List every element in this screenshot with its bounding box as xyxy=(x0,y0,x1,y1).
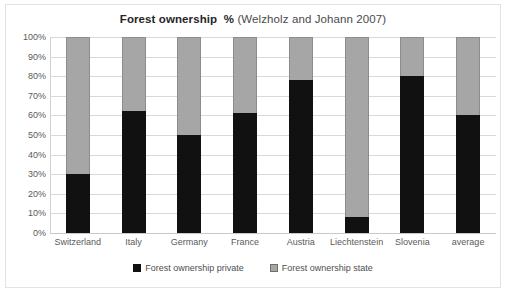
bar-segment-state[interactable] xyxy=(400,37,424,76)
bar-slot xyxy=(162,37,218,233)
stacked-bar[interactable] xyxy=(66,37,90,233)
y-axis-tick-label: 0% xyxy=(6,228,46,238)
x-axis-tick-label: France xyxy=(217,237,273,247)
stacked-bar[interactable] xyxy=(289,37,313,233)
bar-slot xyxy=(273,37,329,233)
bar-segment-private[interactable] xyxy=(177,135,201,233)
y-axis-tick-label: 80% xyxy=(6,71,46,81)
bar-segment-state[interactable] xyxy=(66,37,90,174)
gray-square-icon xyxy=(270,264,278,272)
legend-item[interactable]: Forest ownership state xyxy=(270,263,373,273)
bar-segment-private[interactable] xyxy=(66,174,90,233)
black-square-icon xyxy=(133,264,141,272)
bar-slot xyxy=(329,37,385,233)
bar-slot xyxy=(106,37,162,233)
bar-segment-state[interactable] xyxy=(456,37,480,115)
legend-item-label: Forest ownership state xyxy=(282,263,373,273)
legend-item[interactable]: Forest ownership private xyxy=(133,263,244,273)
y-axis-tick-label: 90% xyxy=(6,52,46,62)
bar-segment-private[interactable] xyxy=(400,76,424,233)
legend-item-label: Forest ownership private xyxy=(145,263,244,273)
bar-slot xyxy=(385,37,441,233)
bar-segment-state[interactable] xyxy=(122,37,146,111)
bar-segment-private[interactable] xyxy=(122,111,146,233)
chart-title: Forest ownership % (Welzholz and Johann … xyxy=(6,13,500,25)
chart-container: Forest ownership % (Welzholz and Johann … xyxy=(5,4,501,288)
y-axis-tick-label: 100% xyxy=(6,32,46,42)
bar-series-group xyxy=(50,37,496,233)
chart-title-main: Forest ownership % xyxy=(120,13,234,25)
y-axis-tick-label: 70% xyxy=(6,91,46,101)
y-axis-tick-label: 30% xyxy=(6,169,46,179)
y-axis-tick-label: 20% xyxy=(6,189,46,199)
x-axis-tick-label: Austria xyxy=(273,237,329,247)
y-axis-tick-label: 40% xyxy=(6,150,46,160)
bar-segment-private[interactable] xyxy=(345,217,369,233)
x-axis-tick-label: Switzerland xyxy=(50,237,106,247)
y-axis-tick-label: 10% xyxy=(6,208,46,218)
bar-segment-state[interactable] xyxy=(233,37,257,113)
bar-segment-state[interactable] xyxy=(177,37,201,135)
bar-segment-state[interactable] xyxy=(345,37,369,217)
bar-slot xyxy=(440,37,496,233)
bar-slot xyxy=(50,37,106,233)
bar-segment-state[interactable] xyxy=(289,37,313,80)
stacked-bar[interactable] xyxy=(122,37,146,233)
stacked-bar[interactable] xyxy=(177,37,201,233)
x-axis-tick-label: Italy xyxy=(106,237,162,247)
stacked-bar[interactable] xyxy=(233,37,257,233)
y-axis-tick-label: 50% xyxy=(6,130,46,140)
x-axis-labels: SwitzerlandItalyGermanyFranceAustriaLiec… xyxy=(50,237,496,247)
chart-title-citation: (Welzholz and Johann 2007) xyxy=(234,13,386,25)
bar-segment-private[interactable] xyxy=(289,80,313,233)
x-axis-tick-label: Slovenia xyxy=(385,237,441,247)
stacked-bar[interactable] xyxy=(400,37,424,233)
gridline xyxy=(50,233,496,234)
stacked-bar[interactable] xyxy=(456,37,480,233)
y-axis-labels: 100%90%80%70%60%50%40%30%20%10%0% xyxy=(6,37,46,233)
bar-segment-private[interactable] xyxy=(456,115,480,233)
bar-segment-private[interactable] xyxy=(233,113,257,233)
y-axis-tick-label: 60% xyxy=(6,110,46,120)
x-axis-tick-label: average xyxy=(440,237,496,247)
stacked-bar[interactable] xyxy=(345,37,369,233)
x-axis-tick-label: Liechtenstein xyxy=(329,237,385,247)
bar-slot xyxy=(217,37,273,233)
chart-legend: Forest ownership privateForest ownership… xyxy=(6,263,500,273)
x-axis-tick-label: Germany xyxy=(162,237,218,247)
